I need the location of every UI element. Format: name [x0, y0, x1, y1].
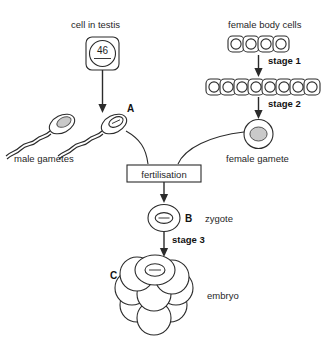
label-male-gametes: male gametes [14, 153, 74, 164]
female-body-cells-row-1 [228, 36, 289, 52]
label-letter-c: C [110, 270, 117, 281]
female-gamete-nucleus [250, 127, 267, 141]
male-gamete-sperm-1 [6, 110, 78, 159]
body-cell [273, 36, 289, 52]
diagram-canvas: cell in testis 46 female body cells [0, 0, 329, 348]
label-stage-1: stage 1 [268, 55, 301, 66]
label-cell-in-testis: cell in testis [71, 19, 120, 30]
biology-diagram: cell in testis 46 female body cells [0, 0, 329, 348]
arrow-stage-2 [254, 97, 262, 119]
label-stage-2: stage 2 [268, 98, 301, 109]
zygote-group [148, 205, 180, 232]
chromosome-number: 46 [97, 45, 109, 56]
body-cell [304, 79, 320, 95]
label-stage-3: stage 3 [172, 234, 205, 245]
female-body-cells-row-2 [206, 79, 320, 95]
arrow-stage-3 [160, 232, 168, 257]
arrow-fertilisation-to-zygote [160, 182, 168, 203]
label-letter-b: B [185, 213, 192, 224]
curve-sperm-to-fertilisation [126, 131, 148, 164]
label-letter-a: A [127, 103, 134, 114]
arrow-testis-to-gametes [98, 70, 106, 113]
female-gamete-group [244, 120, 273, 149]
body-cell [243, 36, 259, 52]
label-embryo: embryo [207, 290, 239, 301]
body-cell [228, 36, 244, 52]
label-zygote: zygote [205, 213, 233, 224]
embryo-group [115, 255, 193, 335]
label-fertilisation: fertilisation [141, 169, 186, 180]
arrow-stage-1 [254, 55, 262, 77]
testis-cell-group: 46 [86, 37, 119, 70]
label-female-body-cells: female body cells [228, 19, 302, 30]
label-female-gamete: female gamete [226, 153, 289, 164]
fertilisation-box-group: fertilisation [127, 165, 201, 182]
body-cell [258, 36, 274, 52]
